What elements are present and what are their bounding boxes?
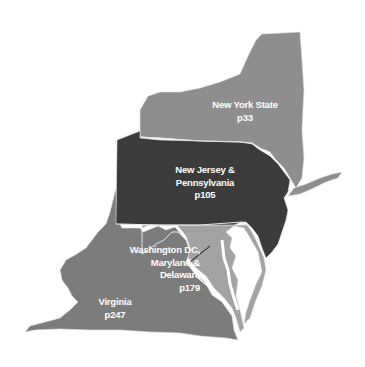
label-nj-pa: New Jersey & Pennsylvania p105 — [160, 164, 250, 202]
label-virginia: Virginia p247 — [80, 296, 150, 321]
region-name: New Jersey & — [160, 164, 250, 177]
label-md-de-dc: Washington DC, Maryland & Delaware p179 — [110, 244, 200, 294]
region-name: Virginia — [80, 296, 150, 309]
region-name: Delaware — [110, 269, 200, 282]
label-new-york: New York State p33 — [205, 99, 285, 124]
region-page: p179 — [110, 282, 200, 295]
region-page: p247 — [80, 309, 150, 322]
region-name: Pennsylvania — [160, 177, 250, 190]
region-name: Washington DC, — [110, 244, 200, 257]
region-page: p105 — [160, 189, 250, 202]
region-name: New York State — [205, 99, 285, 112]
region-name: Maryland & — [110, 257, 200, 270]
region-page: p33 — [205, 112, 285, 125]
